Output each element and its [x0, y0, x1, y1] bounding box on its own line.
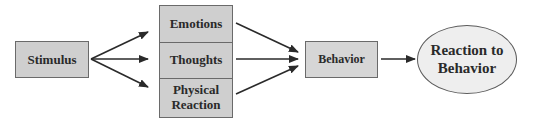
stimulus-node: Stimulus: [15, 41, 89, 78]
thoughts-node: Thoughts: [160, 42, 232, 79]
response-stack: Emotions Thoughts Physical Reaction: [159, 5, 233, 118]
physical-reaction-node: Physical Reaction: [160, 78, 232, 117]
physical-reaction-label: Physical Reaction: [166, 83, 226, 112]
arrow-stimulus-physical: [91, 59, 148, 87]
reaction-to-behavior-label: Reaction to Behavior: [421, 42, 513, 77]
arrow-physical-behavior: [236, 66, 298, 94]
arrow-stimulus-emotions: [91, 32, 148, 59]
reaction-to-behavior-node: Reaction to Behavior: [417, 25, 517, 94]
emotions-node: Emotions: [160, 6, 232, 43]
thoughts-label: Thoughts: [170, 53, 223, 67]
behavior-node: Behavior: [305, 41, 378, 78]
behavior-label: Behavior: [318, 53, 365, 66]
stimulus-label: Stimulus: [27, 53, 76, 67]
emotions-label: Emotions: [170, 17, 223, 31]
arrow-emotions-behavior: [236, 23, 298, 52]
